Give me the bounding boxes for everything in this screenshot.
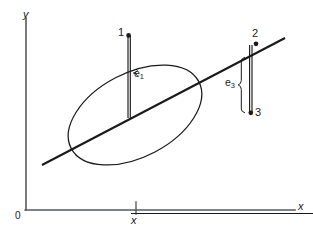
regression-line: [42, 38, 285, 165]
origin-label: 0: [15, 211, 21, 221]
residual-e3-subscript: 3: [231, 81, 235, 90]
data-concentration-ellipse: [52, 44, 219, 185]
data-point-3-label: 3: [255, 107, 261, 118]
data-point-1: [126, 33, 131, 38]
residual-e1-letter: e: [134, 67, 140, 79]
data-point-2-label: 2: [252, 28, 258, 39]
x-mean-tick-label: x: [131, 215, 313, 226]
figure-canvas: [0, 0, 313, 240]
regression-diagram-figure: y x 0 x 1 2 3 e1 e3: [0, 0, 313, 240]
x-mean-tick-letter: x: [131, 214, 137, 226]
data-point-3: [248, 110, 253, 115]
residual-e3-letter: e: [225, 76, 231, 88]
data-ellipse-group: [52, 44, 219, 185]
residual-e1-label: e1: [134, 68, 144, 79]
data-point-1-label: 1: [118, 27, 124, 38]
x-axis-label: x: [298, 201, 304, 212]
data-point-2: [254, 41, 259, 46]
residual-e3-label: e3: [225, 77, 235, 88]
overbar: [131, 213, 313, 214]
residual-e1-subscript: 1: [140, 72, 144, 81]
residual-e3-brace: [238, 58, 244, 113]
y-axis-label: y: [23, 9, 29, 20]
